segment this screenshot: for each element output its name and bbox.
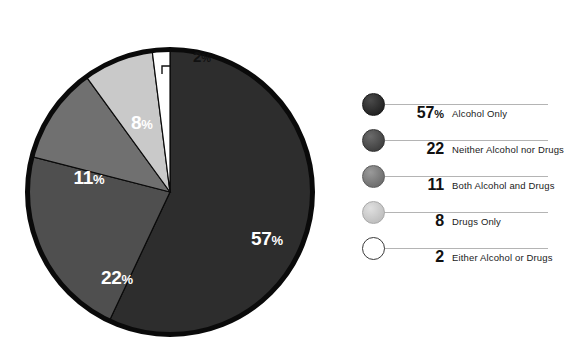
- pie-slices: [24, 44, 316, 340]
- legend-value-number: 2: [435, 248, 444, 265]
- legend-label-alcohol-only: Alcohol Only: [452, 108, 507, 119]
- chart-legend: 57%Alcohol Only22Neither Alcohol nor Dru…: [360, 104, 552, 284]
- slice-label-value: 8: [131, 112, 141, 133]
- legend-label-drugs-only: Drugs Only: [452, 216, 501, 227]
- slice-label-value: 57: [251, 228, 272, 249]
- slice-label-value: 11: [73, 167, 93, 188]
- legend-value-number: 22: [427, 140, 444, 157]
- legend-row-drugs-only[interactable]: 8Drugs Only: [360, 212, 552, 248]
- legend-row-neither-alcohol-nor-drugs[interactable]: 22Neither Alcohol nor Drugs: [360, 140, 552, 176]
- slice-label-percent-sign: %: [93, 172, 105, 187]
- legend-label-both-alcohol-and-drugs: Both Alcohol and Drugs: [452, 180, 555, 191]
- legend-value-alcohol-only: 57%: [390, 104, 444, 122]
- slice-label-value: 22: [101, 267, 122, 288]
- legend-label-either-alcohol-or-drugs: Either Alcohol or Drugs: [452, 252, 553, 263]
- slice-label-value: 2: [193, 48, 201, 65]
- legend-row-either-alcohol-or-drugs[interactable]: 2Either Alcohol or Drugs: [360, 248, 552, 284]
- legend-value-percent-sign: %: [434, 108, 444, 120]
- slice-label-percent-sign: %: [121, 272, 133, 287]
- pie-chart-graphic: 57%22%11%8%2%: [24, 44, 316, 340]
- dark-gray-circle-swatch: [362, 129, 385, 152]
- dark-circle-swatch: [362, 93, 385, 116]
- mid-gray-circle-swatch: [362, 165, 385, 188]
- legend-row-alcohol-only[interactable]: 57%Alcohol Only: [360, 104, 552, 140]
- legend-value-neither-alcohol-nor-drugs: 22: [390, 140, 444, 158]
- slice-label-percent-sign: %: [271, 233, 283, 248]
- legend-value-drugs-only: 8: [390, 212, 444, 230]
- legend-value-number: 8: [435, 212, 444, 229]
- legend-value-either-alcohol-or-drugs: 2: [390, 248, 444, 266]
- legend-label-neither-alcohol-nor-drugs: Neither Alcohol nor Drugs: [452, 144, 564, 155]
- slice-label-either-alcohol-or-drugs: 2%: [193, 48, 211, 65]
- legend-value-number: 57: [417, 104, 434, 121]
- slice-label-percent-sign: %: [141, 117, 153, 132]
- slice-label-percent-sign: %: [201, 52, 211, 64]
- pie-svg: 57%22%11%8%2%: [24, 44, 316, 340]
- light-gray-circle-swatch: [362, 201, 385, 224]
- white-circle-swatch: [362, 237, 385, 260]
- legend-row-both-alcohol-and-drugs[interactable]: 11Both Alcohol and Drugs: [360, 176, 552, 212]
- legend-value-number: 11: [427, 176, 444, 193]
- legend-value-both-alcohol-and-drugs: 11: [390, 176, 444, 194]
